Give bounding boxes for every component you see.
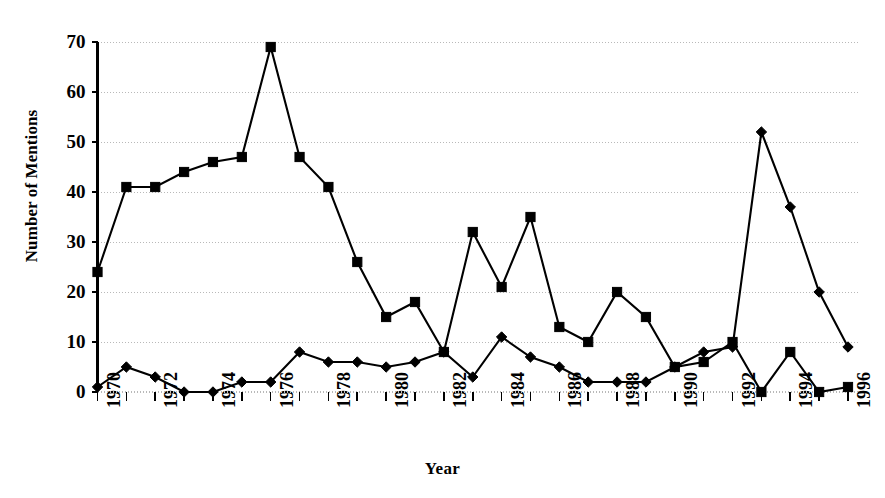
- data-point-marker: [353, 257, 362, 266]
- data-point-marker: [641, 377, 651, 387]
- data-point-marker: [843, 342, 853, 352]
- data-point-marker: [381, 362, 391, 372]
- data-point-marker: [497, 282, 506, 291]
- data-point-marker: [612, 287, 621, 296]
- plot-area: [0, 0, 885, 498]
- data-point-marker: [555, 322, 564, 331]
- data-series-layer: [92, 42, 853, 397]
- data-point-marker: [151, 182, 160, 191]
- data-point-marker: [208, 157, 217, 166]
- data-point-marker: [583, 377, 593, 387]
- data-point-marker: [266, 42, 275, 51]
- data-point-marker: [843, 382, 852, 391]
- axis-lines: [98, 42, 861, 392]
- data-point-marker: [612, 377, 622, 387]
- data-point-marker: [786, 347, 795, 356]
- data-point-marker: [815, 387, 824, 396]
- data-point-marker: [352, 357, 362, 367]
- data-point-marker: [93, 267, 102, 276]
- data-point-marker: [641, 312, 650, 321]
- data-point-marker: [237, 377, 247, 387]
- series-diamond-series: [92, 127, 853, 397]
- data-point-marker: [382, 312, 391, 321]
- data-point-marker: [179, 387, 189, 397]
- data-point-marker: [295, 152, 304, 161]
- data-point-marker: [699, 357, 708, 366]
- data-point-marker: [785, 202, 795, 212]
- data-point-marker: [757, 387, 766, 396]
- chart-container: Number of Mentions Year 010203040506070 …: [0, 0, 885, 498]
- data-point-marker: [180, 167, 189, 176]
- data-point-marker: [323, 357, 333, 367]
- data-point-marker: [468, 227, 477, 236]
- data-point-marker: [526, 212, 535, 221]
- data-point-marker: [150, 372, 160, 382]
- gridlines: [98, 42, 861, 342]
- data-point-marker: [410, 297, 419, 306]
- data-point-marker: [584, 337, 593, 346]
- data-point-marker: [554, 362, 564, 372]
- data-point-marker: [410, 357, 420, 367]
- data-point-marker: [324, 182, 333, 191]
- data-point-marker: [814, 287, 824, 297]
- data-point-marker: [122, 182, 131, 191]
- data-point-marker: [237, 152, 246, 161]
- data-point-marker: [698, 347, 708, 357]
- series-square-series: [93, 42, 853, 396]
- data-point-marker: [756, 127, 766, 137]
- data-point-marker: [208, 387, 218, 397]
